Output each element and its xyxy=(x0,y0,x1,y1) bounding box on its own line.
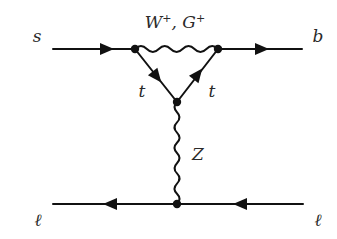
label-b-quark: b xyxy=(313,28,324,45)
vertex-right xyxy=(214,45,222,53)
label-s-quark: s xyxy=(33,28,42,45)
diagram-canvas xyxy=(0,0,337,239)
arrow-right-icon xyxy=(255,43,269,55)
label-w-sup: + xyxy=(162,12,171,25)
w-boson-wavy-line xyxy=(135,46,218,52)
arrow-left-icon xyxy=(233,198,247,210)
label-z-boson: Z xyxy=(192,146,204,163)
label-top-left: t xyxy=(139,83,146,100)
label-g: G xyxy=(182,12,196,32)
vertex-loop-bottom xyxy=(173,98,181,106)
label-sep: , xyxy=(172,12,183,32)
z-boson-wavy-line xyxy=(175,102,180,204)
label-w: W xyxy=(145,12,162,32)
feynman-diagram: s b W+, G+ t t Z ℓ ℓ xyxy=(0,0,337,239)
label-w-g-boson: W+, G+ xyxy=(145,13,205,31)
label-g-sup: + xyxy=(196,12,205,25)
label-lepton-left: ℓ xyxy=(34,212,41,229)
label-lepton-right: ℓ xyxy=(314,212,321,229)
label-top-right: t xyxy=(209,83,216,100)
vertex-lepton xyxy=(173,200,181,208)
arrow-right-icon xyxy=(100,43,114,55)
vertex-left xyxy=(131,45,139,53)
arrow-left-icon xyxy=(103,198,117,210)
